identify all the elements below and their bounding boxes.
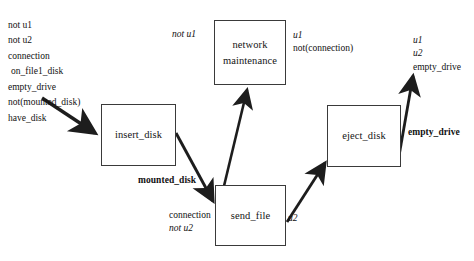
annotation-row: not(connection): [293, 42, 353, 55]
condition-row: on_file1_disk: [8, 64, 80, 79]
label-send-file-effect: u2: [288, 212, 298, 225]
label-goal-state: u1u2empty_drive: [413, 34, 461, 74]
annotation-row: u2: [413, 47, 461, 60]
edge-eject-disk-to-goal: [399, 76, 413, 156]
node-insert-disk[interactable]: insert_disk: [101, 104, 176, 166]
node-label-line: insert_disk: [115, 127, 162, 142]
label-eject-disk-edge-label: empty_drive: [408, 126, 460, 139]
label-network-precondition: not u1: [172, 28, 196, 41]
condition-row: not(mounted_disk): [8, 95, 80, 110]
node-label-line: maintenance: [223, 53, 277, 68]
condition-row: empty_drive: [8, 80, 80, 95]
diagram-canvas: not u1not u2connectionon_file1_diskempty…: [0, 0, 474, 261]
node-label-line: network: [232, 37, 267, 52]
annotation-row: u2: [288, 212, 298, 225]
label-network-effect: u1not(connection): [293, 29, 353, 56]
node-label-line: send_file: [231, 208, 270, 223]
condition-row: not u2: [8, 33, 80, 48]
edge-send-file-to-network-maintenance: [224, 90, 247, 186]
node-label-line: eject_disk: [342, 128, 386, 143]
condition-row: connection: [8, 49, 80, 64]
annotation-row: not u1: [172, 28, 196, 41]
node-send-file[interactable]: send_file: [215, 185, 286, 246]
node-network-maintenance[interactable]: networkmaintenance: [214, 20, 286, 85]
annotation-row: u1: [413, 34, 461, 47]
annotation-row: empty_drive: [413, 61, 461, 74]
label-send-file-precondition: connectionnot u2: [169, 209, 211, 236]
edge-insert-disk-to-send-file: [176, 133, 213, 201]
label-mounted-disk-edge-label: mounted_disk: [138, 174, 196, 187]
annotation-row: connection: [169, 209, 211, 222]
annotation-row: mounted_disk: [138, 174, 196, 187]
initial-state-conditions: not u1not u2connectionon_file1_diskempty…: [8, 18, 80, 126]
condition-row: not u1: [8, 18, 80, 33]
node-eject-disk[interactable]: eject_disk: [327, 105, 401, 167]
annotation-row: not u2: [169, 222, 211, 235]
annotation-row: empty_drive: [408, 126, 460, 139]
annotation-row: u1: [293, 29, 353, 42]
condition-row: have_disk: [8, 111, 80, 126]
